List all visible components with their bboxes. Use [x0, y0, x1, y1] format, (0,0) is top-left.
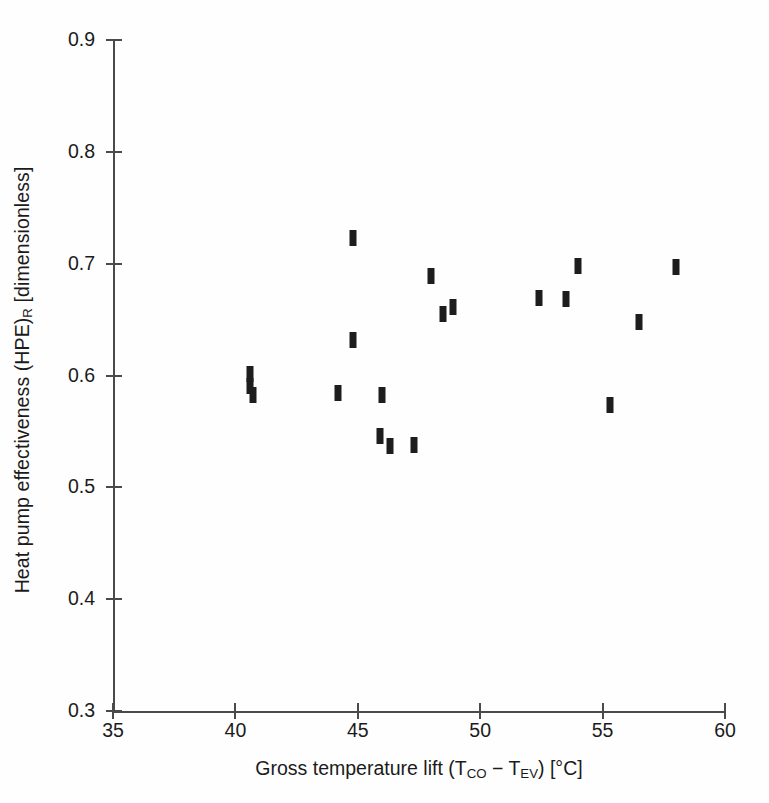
x-tick — [724, 703, 726, 719]
y-tick-label: 0.5 — [68, 475, 95, 498]
y-tick: 0.6 — [106, 375, 122, 377]
data-point — [606, 397, 613, 413]
x-tick-label: 40 — [225, 719, 247, 742]
y-tick-label: 0.8 — [68, 139, 95, 162]
x-axis-label-subscript-ev: EV — [520, 766, 538, 781]
x-tick — [357, 703, 359, 719]
x-axis-label-tail: ) [°C] — [538, 757, 583, 779]
data-point — [575, 258, 582, 274]
data-point — [386, 438, 393, 454]
x-tick-label: 35 — [102, 719, 124, 742]
data-point — [335, 385, 342, 401]
y-tick: 0.5 — [106, 486, 122, 488]
y-tick: 0.9 — [106, 39, 122, 41]
data-point — [673, 259, 680, 275]
data-point — [376, 428, 383, 444]
y-tick-label: 0.6 — [68, 363, 95, 386]
plot-area: 0.30.40.50.60.70.80.9 354045505560 — [113, 40, 725, 711]
x-axis-label-lead: Gross temperature lift (T — [255, 757, 466, 779]
x-tick — [602, 703, 604, 719]
x-axis-line — [113, 711, 726, 713]
x-tick — [234, 703, 236, 719]
y-tick-label: 0.3 — [68, 699, 95, 722]
data-point — [349, 332, 356, 348]
data-point — [636, 314, 643, 330]
x-tick-label: 45 — [347, 719, 369, 742]
data-point — [349, 230, 356, 246]
y-tick: 0.8 — [106, 151, 122, 153]
data-point — [450, 299, 457, 315]
data-point — [411, 437, 418, 453]
data-point — [535, 290, 542, 306]
y-tick-label: 0.4 — [68, 587, 95, 610]
y-axis-label-subscript: R — [20, 308, 35, 318]
x-tick-label: 50 — [469, 719, 491, 742]
data-point — [428, 268, 435, 284]
x-axis-label-mid: − T — [487, 757, 521, 779]
y-tick: 0.7 — [106, 263, 122, 265]
data-point — [379, 387, 386, 403]
data-point — [562, 291, 569, 307]
x-tick — [112, 703, 114, 719]
y-axis-label-tail: [dimensionless] — [11, 167, 33, 308]
data-point — [440, 306, 447, 322]
y-axis-label: Heat pump effectiveness (HPE)R [dimensio… — [0, 0, 46, 760]
y-tick-label: 0.7 — [68, 251, 95, 274]
x-tick-label: 55 — [592, 719, 614, 742]
x-axis-label: Gross temperature lift (TCO − TEV) [°C] — [113, 757, 725, 781]
x-tick — [479, 703, 481, 719]
y-tick-label: 0.9 — [68, 28, 95, 51]
x-axis-label-subscript-co: CO — [467, 766, 487, 781]
scatter-plot-figure: Heat pump effectiveness (HPE)R [dimensio… — [0, 0, 769, 803]
data-point — [249, 387, 256, 403]
x-tick-label: 60 — [714, 719, 736, 742]
y-axis-label-lead: Heat pump effectiveness (HPE) — [11, 318, 33, 594]
y-tick: 0.4 — [106, 598, 122, 600]
y-tick: 0.3 — [106, 710, 122, 712]
